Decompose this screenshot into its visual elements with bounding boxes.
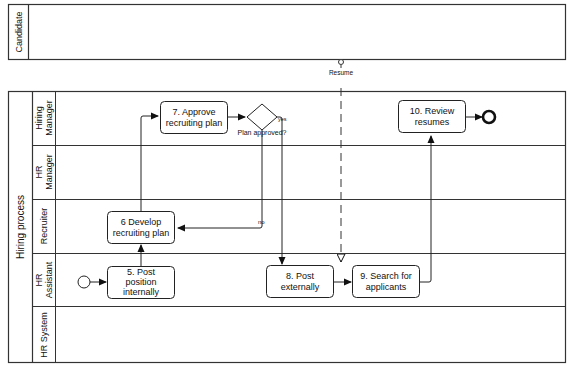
task-label: 9. Search for xyxy=(360,271,412,281)
task-label: externally xyxy=(281,282,320,292)
task-9-search-for-applicants[interactable]: 9. Search for applicants xyxy=(353,266,420,298)
pool-candidate: Candidate xyxy=(9,5,566,60)
pool-candidate-label: Candidate xyxy=(14,11,24,52)
task-label: applicants xyxy=(366,282,407,292)
gateway-no-label: no xyxy=(258,219,265,225)
task-8-post-externally[interactable]: 8. Post externally xyxy=(267,266,334,298)
task-label: recruiting plan xyxy=(166,118,223,128)
task-10-review-resumes[interactable]: 10. Review resumes xyxy=(399,101,466,133)
task-5-post-position-internally[interactable]: 5. Post position internally xyxy=(108,267,175,299)
start-event-icon[interactable] xyxy=(78,276,90,288)
task-label: internally xyxy=(123,287,160,297)
lane-label-line1: Hiring xyxy=(34,106,44,130)
task-label: 5. Post xyxy=(127,267,156,277)
lane-label-line1: Recruiter xyxy=(39,208,49,245)
task-label: position xyxy=(125,277,156,287)
task-label: 8. Post xyxy=(286,271,315,281)
gateway-yes-label: yes xyxy=(278,116,287,122)
lane-label-line1: HR xyxy=(34,273,44,286)
task-label: recruiting plan xyxy=(113,228,170,238)
lane-label-line1: HR xyxy=(34,165,44,178)
task-label: resumes xyxy=(415,117,450,127)
bpmn-diagram: Candidate Hiring process Hiring Manager … xyxy=(0,0,574,372)
task-6-develop-recruiting-plan[interactable]: 6 Develop recruiting plan xyxy=(108,212,175,244)
lane-hr-system: HR System xyxy=(39,312,49,358)
message-flow-label: Resume xyxy=(329,69,354,76)
lane-recruiter: Recruiter xyxy=(39,208,49,245)
task-label: 10. Review xyxy=(410,106,455,116)
lane-label-line2: Assistant xyxy=(44,261,54,298)
pool-hiring-process: Hiring process xyxy=(9,92,566,363)
end-event-icon[interactable] xyxy=(483,111,495,123)
pool-hiring-label: Hiring process xyxy=(15,195,26,259)
gateway-label: Plan approved? xyxy=(237,129,286,137)
lane-label-line1: HR System xyxy=(39,312,49,358)
lane-label-line2: Manager xyxy=(44,154,54,190)
task-label: 7. Approve xyxy=(172,107,215,117)
lane-label-line2: Manager xyxy=(44,100,54,136)
task-label: 6 Develop xyxy=(121,217,162,227)
task-7-approve-recruiting-plan[interactable]: 7. Approve recruiting plan xyxy=(161,102,228,134)
